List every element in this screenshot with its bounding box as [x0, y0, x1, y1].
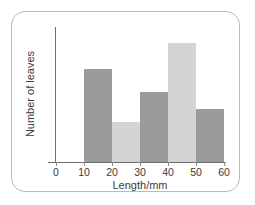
x-tick-label-40: 40	[155, 166, 181, 178]
x-tick-label-50: 50	[183, 166, 209, 178]
bar-20-30	[112, 122, 140, 162]
plot-area: 0102030405060 Number of leaves Length/mm	[0, 0, 255, 205]
x-axis-title: Length/mm	[55, 179, 225, 191]
figure-root: 0102030405060 Number of leaves Length/mm	[0, 0, 255, 205]
x-tick-label-0: 0	[43, 166, 69, 178]
bar-40-50	[168, 43, 196, 162]
x-tick-label-30: 30	[127, 166, 153, 178]
x-tick-label-60: 60	[211, 166, 237, 178]
y-axis-title: Number of leaves	[24, 34, 36, 154]
x-tick-label-10: 10	[71, 166, 97, 178]
x-tick-label-20: 20	[99, 166, 125, 178]
bar-10-20	[84, 69, 112, 162]
bar-30-40	[140, 92, 168, 162]
bar-50-60	[196, 109, 224, 162]
